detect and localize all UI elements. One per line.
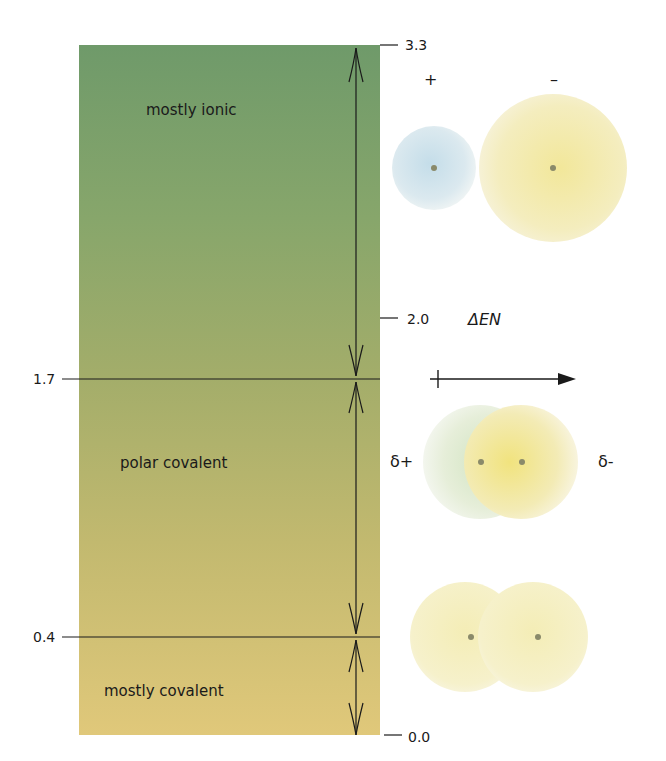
covalent-atom-right	[478, 582, 588, 692]
ionic-pair-illustration	[392, 94, 627, 242]
range-arrows	[349, 48, 363, 735]
diagram-overlay	[0, 0, 666, 761]
polar-pair-illustration	[423, 405, 578, 519]
covalent-pair-illustration	[410, 582, 588, 692]
right-arrow-icon	[430, 370, 576, 388]
